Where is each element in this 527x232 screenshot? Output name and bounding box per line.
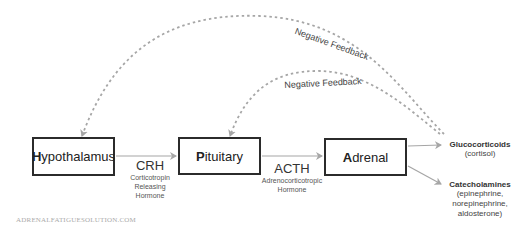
glucocorticoids-output: Glucocorticoids (cortisol) [440, 140, 520, 159]
crh-line-2: Releasing [115, 182, 185, 191]
acth-abbr: ACTH [256, 161, 328, 176]
pituitary-label: ituitary [205, 149, 243, 164]
acth-line-2: Hormone [256, 185, 328, 194]
catecholamines-line-3: aldosterone) [440, 209, 520, 219]
hypothalamus-label: ypothalamus [41, 149, 115, 164]
adrenal-label: drenal [352, 150, 388, 165]
acth-line-1: Adrenocorticotropic [256, 176, 328, 185]
adrenal-initial: A [343, 150, 352, 165]
glucocorticoids-line-1: (cortisol) [440, 149, 520, 159]
feedback-arc-hypothalamus [82, 16, 444, 136]
acth-label: ACTH Adrenocorticotropic Hormone [256, 161, 328, 194]
hypothalamus-initial: H [32, 149, 41, 164]
watermark: ADRENALFATIGUESOLUTION.COM [16, 216, 136, 224]
adrenal-box: Adrenal [324, 138, 407, 176]
catecholamines-line-1: (epinephrine, [440, 189, 520, 199]
crh-label: CRH Corticotropin Releasing Hormone [115, 158, 185, 200]
catecholamines-arrow [408, 166, 441, 184]
pituitary-initial: P [196, 149, 205, 164]
pituitary-box: Pituitary [178, 137, 261, 175]
glucocorticoids-arrow [408, 145, 441, 146]
crh-abbr: CRH [115, 158, 185, 173]
catecholamines-line-2: norepinephrine, [440, 199, 520, 209]
catecholamines-output: Catecholamines (epinephrine, norepinephr… [440, 180, 520, 219]
crh-line-3: Hormone [115, 191, 185, 200]
crh-line-1: Corticotropin [115, 173, 185, 182]
glucocorticoids-title: Glucocorticoids [440, 140, 520, 149]
hypothalamus-box: Hypothalamus [32, 137, 115, 176]
catecholamines-title: Catecholamines [440, 180, 520, 189]
